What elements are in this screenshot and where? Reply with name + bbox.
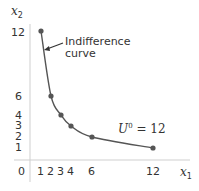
origin-label: 0: [18, 166, 25, 177]
y-tick-6: 6: [15, 91, 22, 102]
data-point-marker: [150, 145, 155, 150]
data-point-marker: [48, 93, 53, 98]
indifference-curve-chart: [0, 0, 199, 191]
x-tick-6: 6: [88, 166, 95, 177]
arrowhead-icon: [44, 46, 50, 51]
y-tick-1: 1: [15, 142, 22, 153]
y-axis-title: x2: [11, 4, 23, 20]
x-tick-2: 2: [47, 166, 54, 177]
utility-level-label: U0 = 12: [118, 122, 166, 136]
x-tick-12: 12: [146, 166, 160, 177]
x-axis-title: x1: [180, 165, 192, 181]
data-point-marker: [38, 28, 43, 33]
indifference-curve-annotation: Indifference curve: [65, 36, 130, 60]
data-point-marker: [89, 134, 94, 139]
x-tick-1: 1: [37, 166, 44, 177]
data-point-marker: [58, 112, 63, 117]
x-tick-4: 4: [67, 166, 74, 177]
y-tick-12: 12: [11, 27, 25, 38]
data-point-marker: [68, 123, 73, 128]
x-tick-3: 3: [57, 166, 64, 177]
